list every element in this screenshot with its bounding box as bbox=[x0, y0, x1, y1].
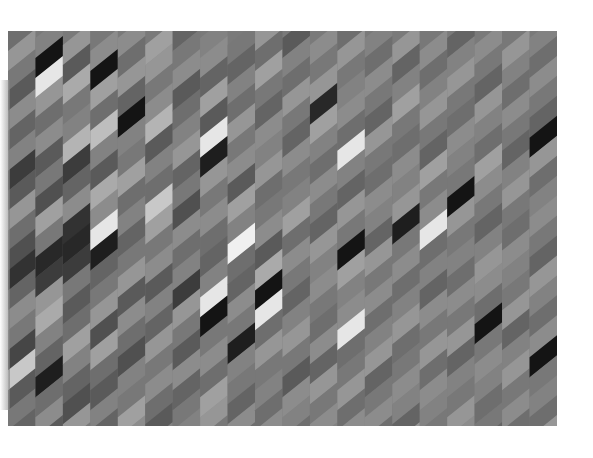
left-edge-shadow bbox=[0, 80, 10, 410]
artwork-canvas bbox=[8, 31, 557, 426]
artwork-frame bbox=[8, 31, 557, 426]
